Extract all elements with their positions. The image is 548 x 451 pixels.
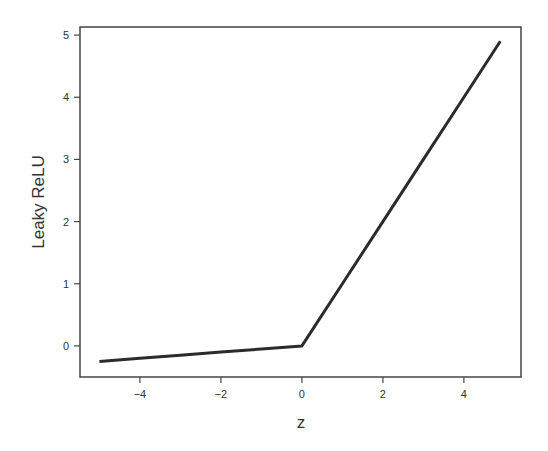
x-tick-label: 2 xyxy=(380,388,386,400)
y-tick-label: 4 xyxy=(63,91,69,103)
plot-frame xyxy=(80,27,521,377)
series-leaky-relu xyxy=(99,41,500,361)
x-axis-label: z xyxy=(297,413,306,432)
x-tick-label: 0 xyxy=(299,388,305,400)
y-tick-label: 5 xyxy=(63,29,69,41)
y-tick-label: 3 xyxy=(63,153,69,165)
y-axis: 012345 xyxy=(63,29,80,352)
series-line xyxy=(99,41,500,361)
x-axis: −4−2024 xyxy=(134,377,467,400)
y-tick-label: 0 xyxy=(63,340,69,352)
x-tick-label: 4 xyxy=(461,388,467,400)
leaky-relu-chart: −4−2024 012345 z Leaky ReLU xyxy=(0,0,548,451)
y-tick-label: 2 xyxy=(63,216,69,228)
x-tick-label: −2 xyxy=(215,388,228,400)
plot-area xyxy=(80,27,521,377)
x-tick-label: −4 xyxy=(134,388,147,400)
y-axis-label: Leaky ReLU xyxy=(29,155,48,249)
y-tick-label: 1 xyxy=(63,278,69,290)
